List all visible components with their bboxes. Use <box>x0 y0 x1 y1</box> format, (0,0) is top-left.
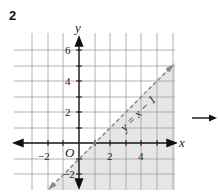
x-tick-label: 2 <box>107 150 113 162</box>
right-arrow-icon <box>192 115 217 122</box>
y-axis-label: y <box>73 20 81 35</box>
y-tick-label: −2 <box>63 168 75 180</box>
y-tick-label: 2 <box>65 106 71 118</box>
x-axis-label: x <box>178 135 185 150</box>
origin-label: O <box>65 145 75 160</box>
y-tick-label: 6 <box>65 44 71 56</box>
coordinate-graph: y x O −2 2 4 6 4 2 −2 y = x − 1 <box>0 0 218 196</box>
y-tick-label: 4 <box>65 75 71 87</box>
x-tick-label: 4 <box>138 150 144 162</box>
x-tick-label: −2 <box>38 150 50 162</box>
